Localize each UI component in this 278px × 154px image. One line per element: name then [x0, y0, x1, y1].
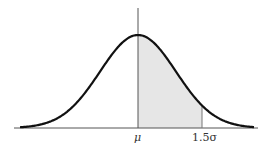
- bell-curve: [20, 35, 254, 127]
- normal-distribution-diagram: μ 1.5σ: [0, 0, 278, 154]
- mu-label: μ: [134, 131, 141, 144]
- sigma-label: 1.5σ: [192, 131, 217, 144]
- shaded-area: [138, 35, 202, 128]
